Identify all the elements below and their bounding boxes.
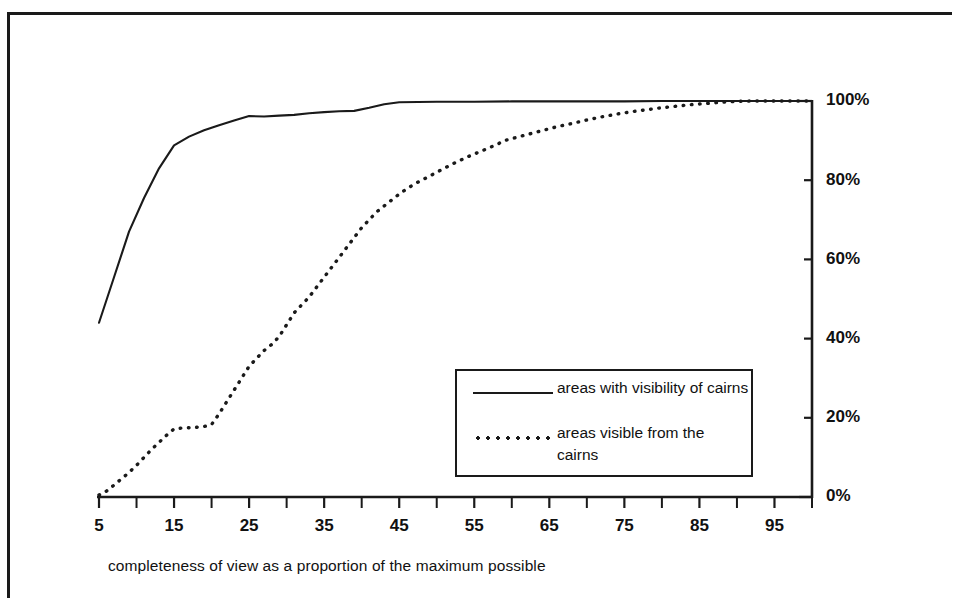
x-tick-label: 65 xyxy=(540,516,559,535)
x-tick-label: 95 xyxy=(765,516,784,535)
chart-figure: 0%20%40%60%80%100% 5152535455565758595 a… xyxy=(0,0,953,598)
x-tick-label: 85 xyxy=(690,516,709,535)
x-axis-caption: completeness of view as a proportion of … xyxy=(108,557,546,575)
chart-plot-svg: 0%20%40%60%80%100% 5152535455565758595 xyxy=(0,0,953,598)
x-tick-label: 75 xyxy=(615,516,634,535)
legend-entry-0: areas with visibility of cairns xyxy=(457,377,751,402)
x-tick-label: 5 xyxy=(94,516,103,535)
y-tick-label: 80% xyxy=(826,170,860,189)
legend-entry-1: areas visible from the cairns xyxy=(457,422,751,466)
x-axis-tick-labels: 5152535455565758595 xyxy=(94,516,784,535)
x-tick-label: 45 xyxy=(390,516,409,535)
y-axis-tick-labels: 0%20%40%60%80%100% xyxy=(826,90,869,505)
y-tick-label: 0% xyxy=(826,486,851,505)
y-tick-label: 100% xyxy=(826,90,869,109)
x-tick-label: 55 xyxy=(465,516,484,535)
y-tick-label: 40% xyxy=(826,328,860,347)
y-tick-label: 60% xyxy=(826,249,860,268)
x-tick-label: 35 xyxy=(315,516,334,535)
legend-label-0: areas with visibility of cairns xyxy=(557,377,749,399)
legend-key-dotted-line-icon xyxy=(471,429,557,447)
legend-key-solid-line-icon xyxy=(471,384,557,402)
x-tick-label: 15 xyxy=(165,516,184,535)
chart-legend: areas with visibility of cairns areas vi… xyxy=(455,369,753,477)
series-line-0 xyxy=(99,101,812,323)
x-tick-label: 25 xyxy=(240,516,259,535)
legend-label-1: areas visible from the cairns xyxy=(557,422,749,466)
y-tick-label: 20% xyxy=(826,407,860,426)
